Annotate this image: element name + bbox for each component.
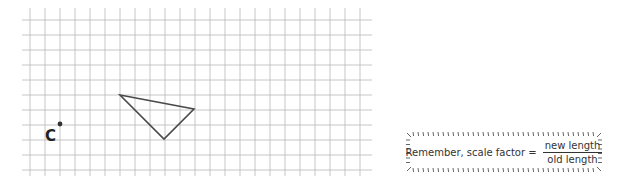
center-of-enlargement-label: C (45, 127, 56, 145)
center-of-enlargement-point (58, 122, 63, 127)
scale-factor-reminder: Remember, scale factor = new length old … (405, 131, 603, 173)
reminder-prefix: Remember, scale factor = (406, 147, 537, 158)
reminder-text: Remember, scale factor = new length old … (405, 131, 603, 173)
triangle-shape (120, 95, 194, 139)
scale-factor-fraction: new length old length (543, 140, 603, 165)
fraction-denominator: old length (545, 153, 599, 165)
fraction-numerator: new length (543, 140, 603, 153)
square-grid (22, 8, 372, 176)
